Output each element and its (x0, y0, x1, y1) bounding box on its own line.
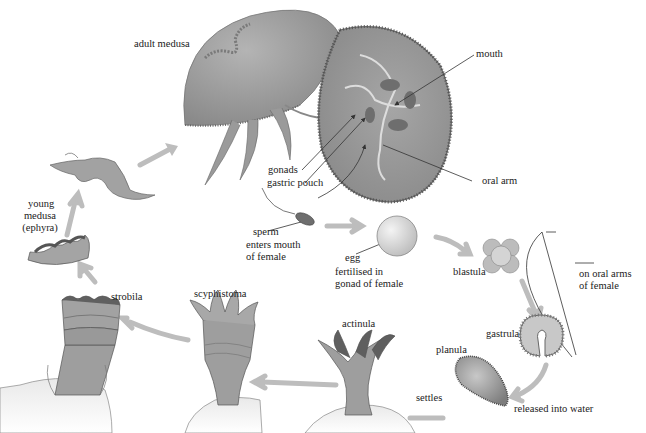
label-on-oral-arms-2: of female (579, 280, 619, 292)
label-sperm-note-1: enters mouth (246, 239, 301, 251)
label-young-medusa-1: young (26, 198, 56, 210)
jellyfish-life-cycle-diagram: adult medusa mouth oral arm gonads gastr… (0, 0, 646, 433)
label-young-medusa-3: (ephyra) (17, 222, 63, 234)
label-strobila: strobila (111, 291, 143, 303)
label-sperm: sperm (253, 226, 279, 238)
label-egg-note-1: fertilised in (335, 266, 383, 278)
ephyra-illustration (28, 235, 89, 265)
label-released-into-water: released into water (514, 403, 593, 415)
label-mouth: mouth (476, 48, 503, 60)
label-egg: egg (345, 252, 360, 264)
label-on-oral-arms-1: on oral arms (579, 268, 632, 280)
adult-medusa-oral-view (319, 27, 452, 202)
label-gastrula: gastrula (486, 328, 519, 340)
label-blastula: blastula (453, 266, 486, 278)
strobila-illustration (47, 296, 120, 395)
sperm-illustration (262, 188, 316, 228)
label-settles: settles (416, 392, 442, 404)
label-planula: planula (436, 344, 467, 356)
label-sperm-note-2: of female (246, 251, 286, 263)
actinula-illustration (318, 330, 395, 415)
egg-illustration (377, 216, 417, 256)
label-egg-note-2: gonad of female (335, 278, 403, 290)
label-adult-medusa: adult medusa (134, 38, 190, 50)
label-oral-arm: oral arm (482, 175, 517, 187)
scyphistoma-illustration (190, 290, 258, 405)
blastula-illustration (483, 239, 519, 273)
young-medusa-swimming-illustration (50, 153, 155, 199)
label-gastric-pouch: gastric pouch (267, 177, 323, 189)
label-gonads: gonads (268, 164, 298, 176)
label-young-medusa-2: medusa (20, 210, 60, 222)
gastrula-illustration (520, 315, 563, 356)
adult-medusa-illustration (184, 10, 340, 185)
label-scyphistoma: scyphistoma (194, 288, 247, 300)
planula-illustration (455, 356, 507, 406)
diagram-canvas (0, 0, 646, 433)
label-actinula: actinula (342, 318, 375, 330)
